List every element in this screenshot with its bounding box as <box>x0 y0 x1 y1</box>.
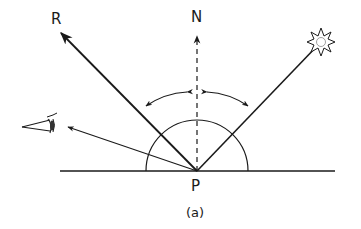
hemisphere-arc <box>146 120 248 171</box>
label-reflected: R <box>51 10 61 28</box>
sun-burst-icon <box>307 28 335 56</box>
reflection-diagram: R N P (a) <box>0 0 361 229</box>
incident-ray <box>197 45 318 171</box>
label-point: P <box>191 177 200 195</box>
reflected-ray <box>61 33 197 171</box>
label-normal: N <box>191 8 202 26</box>
figure-caption: (a) <box>186 205 204 220</box>
eye-icon <box>22 113 57 133</box>
angle-arc-left <box>146 92 187 106</box>
view-ray <box>68 127 197 171</box>
angle-arc-right <box>207 92 248 106</box>
